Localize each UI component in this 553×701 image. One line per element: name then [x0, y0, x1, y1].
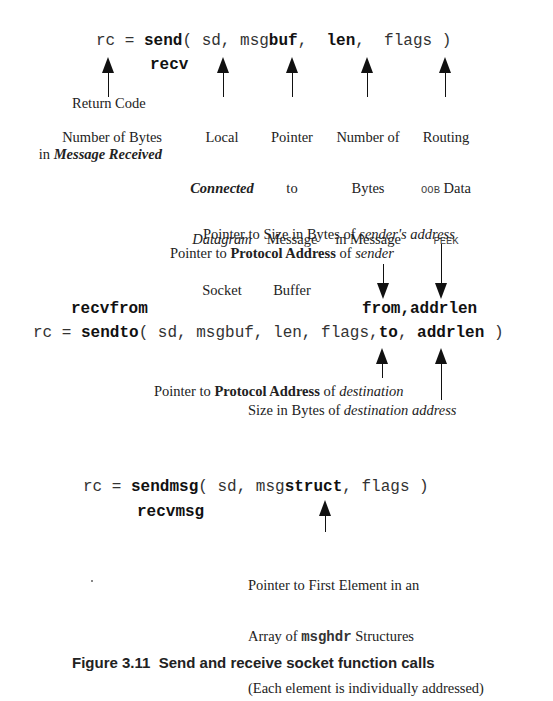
sendto-close: ): [484, 324, 503, 342]
msgstruct-param: struct: [285, 478, 343, 496]
addrlen-param: addrlen: [417, 324, 484, 342]
arrow-up-icon: [361, 57, 373, 97]
destination-address-em: destination address: [344, 402, 457, 418]
rc-assign: rc =: [33, 324, 81, 342]
arrow-down-icon: [377, 264, 389, 299]
figure-caption: Figure 3.11 Send and receive socket func…: [72, 654, 435, 671]
recvmsg-function-name: recvmsg: [137, 503, 204, 521]
arrow-up-icon: [217, 57, 229, 97]
sendto-comma: ,: [398, 324, 417, 342]
arrow-up-icon: [439, 57, 451, 97]
arrow-up-icon: [435, 348, 447, 400]
sender-address-em: sender's address: [359, 226, 455, 242]
length-label-line1: Number of: [322, 129, 414, 146]
sender-addrlen-text: Pointer to Size in Bytes of: [203, 226, 359, 242]
recv-function-name: recv: [150, 56, 188, 74]
recv-label: recv: [150, 56, 188, 74]
arrow-up-icon: [286, 57, 298, 97]
from-addrlen-params: from,addrlen: [362, 300, 477, 318]
recv-return-label-1: Number of Bytes: [20, 129, 162, 146]
size-in-bytes-text: Size in Bytes of: [248, 402, 344, 418]
protocol-address-bold: Protocol Address: [230, 245, 335, 261]
msgbuf-param: buf: [269, 32, 298, 50]
sendmsg-function-name: sendmsg: [131, 478, 198, 496]
rc-assign: rc =: [96, 32, 144, 50]
send-call-line: rc = send( sd, msgbuf, len, flags ): [96, 32, 451, 50]
recvfrom-label: recvfrom: [71, 300, 148, 318]
msgstruct-label-line1: Pointer to First Element in an: [248, 577, 484, 594]
len-param: len: [326, 32, 355, 50]
send-comma1: ,: [298, 32, 327, 50]
flags-param: , flags ): [355, 32, 451, 50]
to-param: to: [379, 324, 398, 342]
sendto-args: ( sd, msgbuf, len, flags,: [139, 324, 379, 342]
msghdr-type: msghdr: [301, 629, 351, 645]
array-of-text: Array of: [248, 628, 301, 644]
recvfrom-args: from,addrlen: [362, 300, 477, 318]
message-received-text: Message Received: [54, 146, 162, 162]
recv-return-label-2: in Message Received: [20, 146, 162, 163]
buffer-label-line4: Buffer: [252, 282, 332, 299]
in-text: in: [39, 146, 54, 162]
buffer-label-line1: Pointer: [252, 129, 332, 146]
flags-label-oob: OOB Data: [411, 180, 481, 199]
flags-label-routing: Routing: [411, 129, 481, 146]
sendmsg-args-b: , flags ): [342, 478, 428, 496]
sender-addrlen-label: Pointer to Size in Bytes of sender's add…: [203, 226, 455, 243]
pointer-to-text: Pointer to: [154, 383, 214, 399]
buffer-label: Pointer to Message Buffer: [252, 95, 332, 316]
buffer-label-line2: to: [252, 180, 332, 197]
pointer-to-text: Pointer to: [170, 245, 230, 261]
recvfrom-function-name: recvfrom: [71, 300, 148, 318]
destination-addrlen-label: Size in Bytes of destination address: [248, 402, 457, 419]
of-text: of: [320, 383, 339, 399]
protocol-address-bold: Protocol Address: [214, 383, 319, 399]
sender-address-label: Pointer to Protocol Address of sender: [170, 245, 394, 262]
recvmsg-label: recvmsg: [137, 503, 204, 521]
data-text: Data: [440, 180, 471, 196]
rc-assign: rc =: [83, 478, 131, 496]
of-text: of: [336, 245, 355, 261]
oob-text: OOB: [421, 184, 440, 196]
arrow-up-icon: [102, 57, 114, 97]
sendto-call-line: rc = sendto( sd, msgbuf, len, flags,to, …: [33, 324, 504, 342]
sendto-function-name: sendto: [81, 324, 139, 342]
structures-text: Structures: [352, 628, 414, 644]
arrow-up-icon: [376, 348, 388, 378]
msgstruct-label-line3: (Each element is individually addressed): [248, 680, 484, 697]
sendmsg-call-line: rc = sendmsg( sd, msgstruct, flags ): [83, 478, 429, 496]
return-code-label: Return Code: [72, 95, 146, 112]
destination-address-label: Pointer to Protocol Address of destinati…: [154, 383, 404, 400]
scan-artifact-dot: [91, 580, 93, 582]
arrow-up-icon: [319, 500, 331, 532]
arrow-down-icon: [435, 244, 447, 299]
length-label-line2: Bytes: [322, 180, 414, 197]
send-args-a: ( sd, msg: [182, 32, 268, 50]
msgstruct-label-line2: Array of msghdr Structures: [248, 628, 484, 646]
send-function-name: send: [144, 32, 182, 50]
sendmsg-args-a: ( sd, msg: [198, 478, 284, 496]
destination-em: destination: [339, 383, 403, 399]
msgstruct-label: Pointer to First Element in an Array of …: [248, 543, 484, 701]
sender-em: sender: [355, 245, 394, 261]
